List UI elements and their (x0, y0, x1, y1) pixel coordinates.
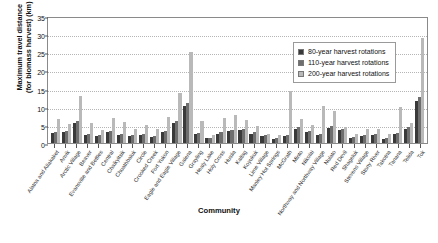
bar (212, 135, 215, 143)
y-tick-label: 30 (37, 33, 45, 40)
x-label-cell: Tanana (393, 148, 404, 200)
bar-group (227, 18, 238, 143)
bar (200, 121, 203, 143)
bar (322, 106, 325, 143)
plot-area: 05101520253035 80-year harvest rotations… (47, 17, 428, 144)
bar (101, 130, 104, 143)
bar-group (260, 18, 271, 143)
bar-group (83, 18, 94, 143)
bar (267, 134, 270, 143)
legend-label-110-year: 110-year harvest rotations (308, 59, 389, 66)
legend-swatch-80-year (298, 49, 304, 55)
bar-group (50, 18, 61, 143)
x-tick-label: Telida (401, 149, 414, 164)
bar (256, 126, 259, 143)
bar-group (127, 18, 138, 143)
bar (57, 119, 60, 143)
bar (189, 52, 192, 143)
bar-group (193, 18, 204, 143)
x-label-cell: Telida (404, 148, 415, 200)
bar-group (116, 18, 127, 143)
x-label-cell: Evansville and Bettles (93, 148, 104, 200)
x-label-cell: Huslia (227, 148, 238, 200)
bar-group (282, 18, 293, 143)
y-tick-label: 15 (37, 87, 45, 94)
bar (366, 129, 369, 144)
x-label-cell: Galena (182, 148, 193, 200)
legend-item: 200-year harvest rotations (298, 68, 389, 79)
bar-group (414, 18, 425, 143)
x-label-cell: Manley Hot Springs (271, 148, 282, 200)
legend: 80-year harvest rotations 110-year harve… (293, 42, 396, 83)
x-axis-title: Community (0, 206, 438, 215)
x-label-cell: Stony River (371, 148, 382, 200)
bar (223, 118, 226, 143)
bar (245, 120, 248, 143)
bar-group (171, 18, 182, 143)
y-tick-label: 10 (37, 105, 45, 112)
bar-group (94, 18, 105, 143)
bar (79, 96, 82, 143)
bar (410, 123, 413, 143)
y-axis-title: Maximum travel distance (for biomass har… (15, 0, 33, 117)
bar (278, 135, 281, 143)
x-label-cell: Holy Cross (215, 148, 226, 200)
bar (90, 123, 93, 143)
bar-group (403, 18, 414, 143)
bar-group (61, 18, 72, 143)
bar-group (271, 18, 282, 143)
bar-group (182, 18, 193, 143)
x-label-cell: Northway and Northway Village (315, 148, 326, 200)
y-axis-title-line-2: (for biomass harvest) (km) (24, 0, 33, 117)
bar-group (72, 18, 83, 143)
y-tick-label: 25 (37, 51, 45, 58)
y-tick-label: 5 (41, 123, 45, 130)
bar (156, 129, 159, 143)
bar (134, 129, 137, 143)
legend-label-200-year: 200-year harvest rotations (308, 70, 389, 77)
bar (388, 134, 391, 143)
legend-label-80-year: 80-year harvest rotations (308, 48, 385, 55)
bar-group (160, 18, 171, 143)
bar (234, 115, 237, 143)
x-label-cell: Tok (415, 148, 426, 200)
bar (355, 134, 358, 143)
bar-group (204, 18, 215, 143)
bar (421, 38, 424, 143)
legend-swatch-200-year (298, 71, 304, 77)
x-label-cell: Eagle and Eagle Village (171, 148, 182, 200)
bar (145, 125, 148, 143)
bar (377, 129, 380, 143)
bar (300, 119, 303, 143)
bar (333, 111, 336, 143)
bar-group (149, 18, 160, 143)
bar-group (215, 18, 226, 143)
bar (68, 124, 71, 143)
x-tick-label: Tok (416, 149, 426, 160)
bar (399, 107, 402, 143)
x-label-cell: Nulato (326, 148, 337, 200)
x-axis-tick-labels: Alatna and AllakaketAnvikArctic VillageB… (47, 148, 428, 200)
bar (167, 117, 170, 143)
bar-group (249, 18, 260, 143)
bar (112, 118, 115, 143)
bar-chart-figure: Maximum travel distance (for biomass har… (0, 0, 438, 243)
x-label-cell: Takotna (382, 148, 393, 200)
x-tick-label: Alatna and Allakaket (25, 149, 59, 194)
legend-item: 80-year harvest rotations (298, 46, 389, 57)
y-tick-label: 35 (37, 15, 45, 22)
bar-group (105, 18, 116, 143)
bar (178, 93, 181, 143)
y-tick-label: 20 (37, 69, 45, 76)
bar (311, 125, 314, 144)
legend-item: 110-year harvest rotations (298, 57, 389, 68)
bar-group (138, 18, 149, 143)
bar-group (238, 18, 249, 143)
y-tick-label: 0 (41, 142, 45, 149)
bar (344, 127, 347, 143)
bar (289, 91, 292, 143)
y-axis-title-line-1: Maximum travel distance (15, 0, 24, 117)
legend-swatch-110-year (298, 60, 304, 66)
bar (123, 122, 126, 143)
